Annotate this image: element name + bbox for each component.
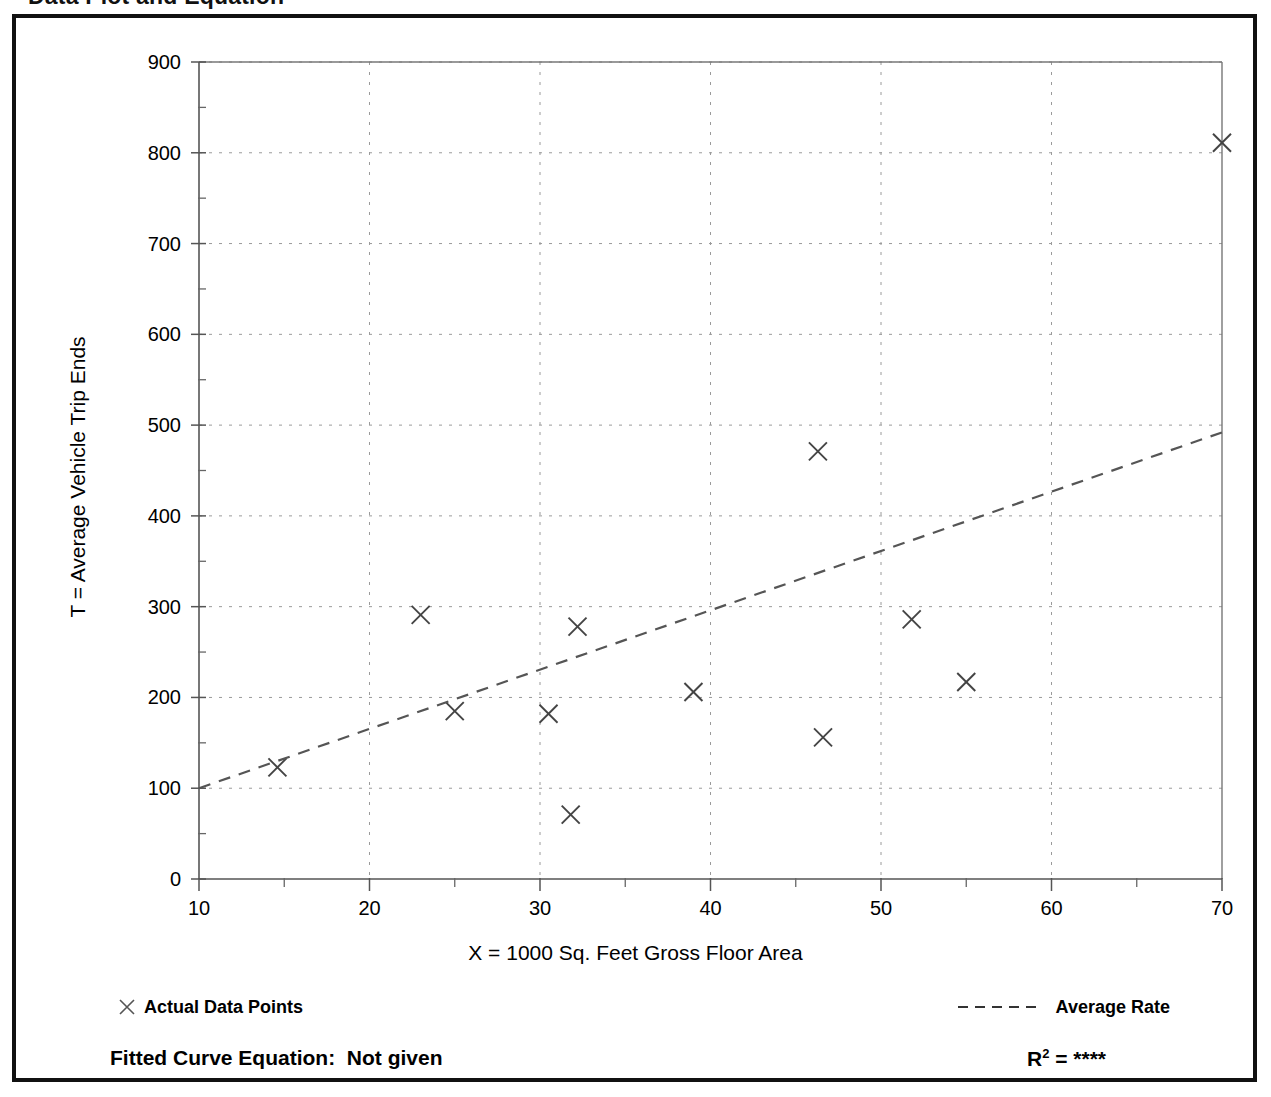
footer-row: Fitted Curve Equation: Not given R2 = **… bbox=[110, 1046, 1170, 1080]
legend-label-data-points: Actual Data Points bbox=[144, 997, 303, 1018]
cross-marker-icon bbox=[110, 997, 144, 1017]
fitted-curve-equation: Fitted Curve Equation: Not given bbox=[110, 1046, 443, 1070]
legend-item-average-rate: Average Rate bbox=[956, 992, 1170, 1022]
chart-page: Data Plot and Equation 01002003004005006… bbox=[0, 0, 1271, 1097]
legend-item-data-points: Actual Data Points bbox=[110, 992, 303, 1022]
r-squared-equals: = **** bbox=[1049, 1047, 1106, 1070]
dashed-line-icon bbox=[956, 1001, 1042, 1013]
legend-label-average-rate: Average Rate bbox=[1056, 997, 1170, 1018]
x-axis-title: X = 1000 Sq. Feet Gross Floor Area bbox=[0, 941, 1271, 965]
y-axis-title: T = Average Vehicle Trip Ends bbox=[66, 287, 90, 667]
chart-legend: Actual Data Points Average Rate bbox=[110, 992, 1170, 1022]
page-title: Data Plot and Equation bbox=[28, 0, 284, 10]
r-squared-prefix: R bbox=[1027, 1047, 1042, 1070]
chart-frame bbox=[12, 14, 1257, 1082]
r-squared-value: R2 = **** bbox=[1027, 1046, 1106, 1071]
